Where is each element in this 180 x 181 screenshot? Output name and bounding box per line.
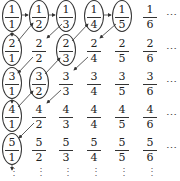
arrow-3-2-to-2-3 xyxy=(45,58,60,74)
arrow-3-3-to-4-2 xyxy=(47,90,61,103)
arrow-4-2-to-5-1 xyxy=(19,123,34,138)
arrow-1-5-to-2-4 xyxy=(100,24,116,38)
arrow-2-2-to-3-1 xyxy=(18,57,33,73)
arrow-2-1-to-1-2 xyxy=(18,23,33,41)
arrow-2-4-to-3-3 xyxy=(74,57,88,70)
arrow-layer xyxy=(0,0,180,181)
arrow-1-3-to-2-2 xyxy=(47,24,62,38)
arrow-2-3-to-1-4 xyxy=(72,24,88,41)
arrow-4-1-to-3-2 xyxy=(18,91,33,107)
